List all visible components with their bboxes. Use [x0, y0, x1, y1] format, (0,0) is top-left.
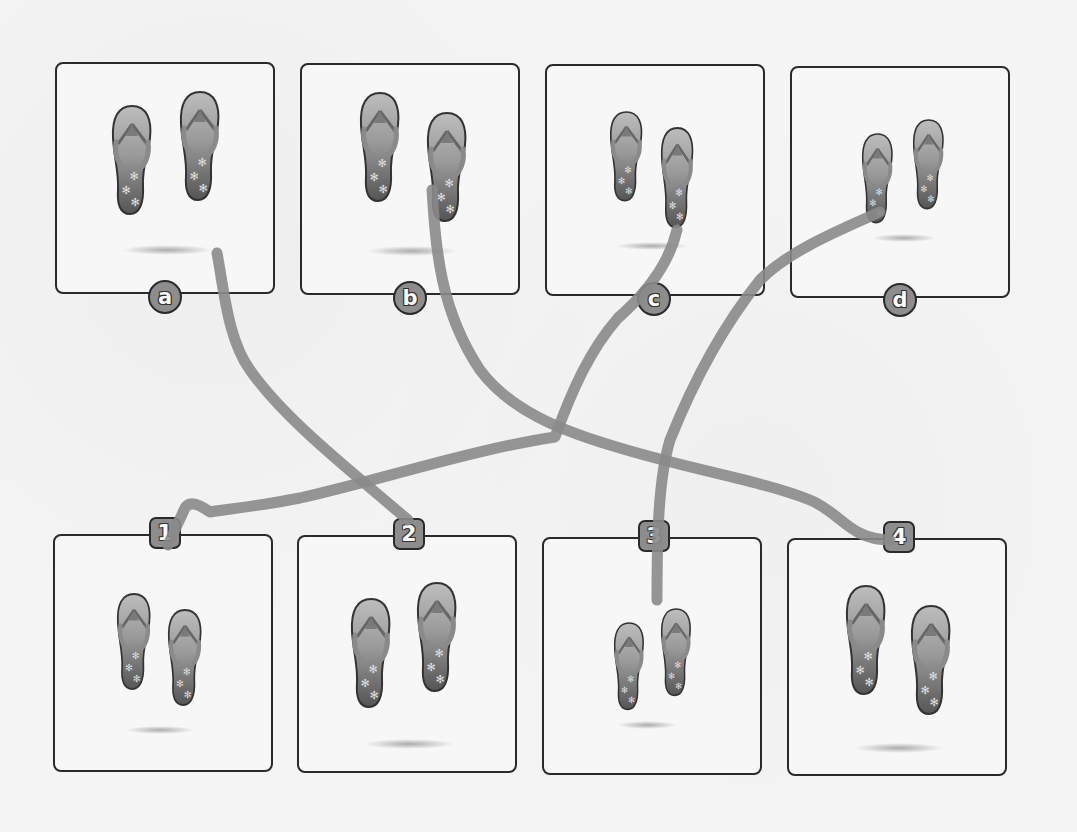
card-b	[300, 63, 520, 295]
card-1	[53, 534, 273, 772]
badge-c: c	[637, 282, 671, 316]
badge-2: 2	[393, 518, 425, 550]
worksheet: ✻ ✻ ✻ a b c	[0, 0, 1077, 832]
flip-flops-image	[299, 537, 519, 775]
badge-b: b	[393, 281, 427, 315]
flip-flops-image	[547, 66, 767, 298]
flip-flops-image	[789, 540, 1009, 778]
card-d	[790, 66, 1010, 298]
flip-flops-image	[55, 536, 275, 774]
card-3	[542, 537, 762, 775]
badge-3: 3	[638, 520, 670, 552]
badge-4: 4	[883, 521, 915, 553]
flip-flops-image	[544, 539, 764, 777]
flip-flops-image	[302, 65, 522, 297]
badge-1: 1	[149, 517, 181, 549]
card-4	[787, 538, 1007, 776]
card-2	[297, 535, 517, 773]
card-c	[545, 64, 765, 296]
flip-flops-image	[792, 68, 1012, 300]
flip-flops-image	[57, 64, 277, 296]
badge-a: a	[148, 280, 182, 314]
badge-d: d	[883, 283, 917, 317]
card-a	[55, 62, 275, 294]
